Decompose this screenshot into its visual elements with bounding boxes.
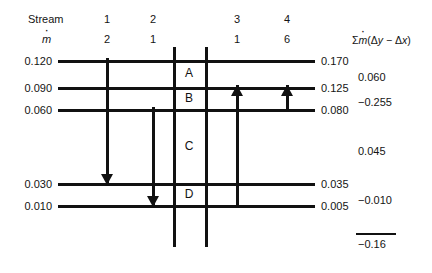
total-underline: [356, 233, 396, 235]
level-line-0.060: [58, 109, 315, 112]
level-left-value-0.030: 0.030: [24, 178, 52, 190]
stream-arrow-shaft-1: [106, 58, 109, 185]
stream-arrow-head-2: [147, 196, 159, 207]
sum-value-3: 0.045: [358, 145, 386, 157]
level-right-value-0.005: 0.005: [321, 200, 349, 212]
stream-arrow-head-4: [281, 85, 293, 96]
level-line-0.010: [58, 205, 315, 208]
stream-massflow-3: 1: [234, 33, 240, 45]
stage-box-left-rule: [173, 47, 176, 247]
stream-number-3: 3: [234, 13, 240, 25]
stream-massflow-1: 2: [104, 33, 110, 45]
level-left-value-0.120: 0.120: [24, 55, 52, 67]
level-left-value-0.090: 0.090: [24, 82, 52, 94]
stream-arrow-head-3: [231, 85, 243, 96]
stream-number-4: 4: [284, 13, 290, 25]
level-left-value-0.010: 0.010: [24, 200, 52, 212]
stream-number-1: 1: [104, 13, 110, 25]
sum-value-4: −0.010: [358, 194, 392, 206]
sum-column-header: Σm(Δy − Δx): [352, 34, 411, 46]
level-line-0.120: [58, 60, 315, 63]
sum-value-1: 0.060: [358, 71, 386, 83]
level-right-value-0.080: 0.080: [321, 104, 349, 116]
stage-letter-B: B: [185, 92, 193, 105]
massflow-row-label: m: [42, 33, 51, 45]
stream-massflow-2: 1: [150, 33, 156, 45]
stage-diagram-canvas: Stream m Σm(Δy − Δx) 12213146 0.1200.170…: [0, 0, 432, 273]
level-right-value-0.125: 0.125: [321, 82, 349, 94]
stage-box-right-rule: [205, 47, 208, 247]
stage-letter-A: A: [185, 67, 193, 80]
sum-value-2: −0.255: [358, 96, 392, 108]
stage-letter-C: C: [185, 140, 194, 153]
level-left-value-0.060: 0.060: [24, 104, 52, 116]
stream-number-2: 2: [150, 13, 156, 25]
stream-arrow-shaft-2: [152, 107, 155, 207]
stream-arrow-shaft-3: [236, 85, 239, 207]
level-right-value-0.035: 0.035: [321, 178, 349, 190]
level-right-value-0.170: 0.170: [321, 55, 349, 67]
stream-arrow-head-1: [101, 174, 113, 185]
stage-letter-D: D: [185, 188, 194, 201]
stream-massflow-4: 6: [284, 33, 290, 45]
total-value: −0.16: [358, 238, 386, 250]
